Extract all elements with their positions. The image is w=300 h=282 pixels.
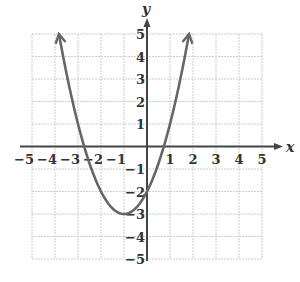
y-tick-label: −4 [125,230,145,245]
x-tick-label: 2 [188,152,197,167]
x-tick-label: −1 [106,152,126,167]
y-tick-label: 2 [136,95,145,110]
x-tick-label: −5 [14,152,34,167]
x-tick-label: 5 [257,152,266,167]
parabola-graph: xy −5−4−3−2−11234554321−1−2−3−4−5 [0,0,300,282]
x-axis-arrow-icon [274,143,283,150]
y-axis-label: y [141,1,151,17]
x-axis-label: x [285,139,295,155]
y-tick-label: −1 [125,162,145,177]
y-tick-label: 1 [136,117,145,132]
x-tick-label: −4 [37,152,57,167]
y-axis-arrow-icon [144,18,151,27]
y-tick-label: −5 [125,252,145,267]
x-tick-label: 4 [234,152,243,167]
x-tick-label: 1 [165,152,174,167]
x-tick-label: −3 [60,152,80,167]
y-tick-label: 3 [136,72,145,87]
y-tick-label: 4 [136,50,145,65]
y-tick-label: −2 [125,185,145,200]
y-tick-label: 5 [136,27,145,42]
x-tick-label: 3 [211,152,220,167]
